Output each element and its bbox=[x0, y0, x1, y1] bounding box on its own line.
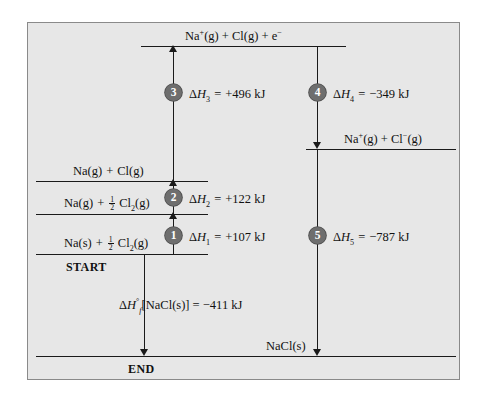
arrow-head-step-3 bbox=[169, 45, 177, 52]
level-label-start: Na(s)+12 Cl2(g) bbox=[64, 236, 148, 253]
step-badge-4[interactable]: 4 bbox=[309, 84, 326, 101]
arrow-head-step-4 bbox=[313, 142, 321, 149]
arrow-head-step-5 bbox=[313, 349, 321, 356]
step-badge-3[interactable]: 3 bbox=[165, 84, 182, 101]
step-label-1: ΔH1=+107 kJ bbox=[189, 231, 265, 244]
arrow-step-5 bbox=[317, 149, 318, 353]
step-badge-2[interactable]: 2 bbox=[165, 189, 182, 206]
level-line-start bbox=[36, 254, 208, 255]
level-label-top: Na+(g) + Cl(g) + e− bbox=[185, 30, 282, 43]
step-badge-1[interactable]: 1 bbox=[165, 227, 182, 244]
level-line-product bbox=[36, 356, 456, 357]
step-badge-5[interactable]: 5 bbox=[309, 227, 326, 244]
arrow-step-3 bbox=[173, 48, 174, 182]
step-label-5: ΔH5=−787 kJ bbox=[333, 231, 409, 244]
end-marker: END bbox=[128, 363, 155, 375]
start-marker: START bbox=[66, 261, 107, 273]
step-label-2: ΔH2=+122 kJ bbox=[189, 193, 265, 206]
arrow-head-overall-formation bbox=[140, 349, 148, 356]
level-label-atoms: Na(g)+Cl(g) bbox=[73, 165, 144, 178]
step-label-4: ΔH4=−349 kJ bbox=[333, 88, 409, 101]
level-line-ion-pair bbox=[306, 149, 456, 150]
overall-formation-label: ΔH°f[NaCl(s)] = −411 kJ bbox=[119, 299, 242, 312]
level-label-product: NaCl(s) bbox=[266, 340, 306, 353]
diagram-panel: Na+(g) + Cl(g) + e− Na+(g) + Cl−(g) Na(g… bbox=[27, 22, 460, 380]
level-label-ion-pair: Na+(g) + Cl−(g) bbox=[344, 133, 422, 146]
level-label-na-gas: Na(g)+12 Cl2(g) bbox=[64, 196, 150, 213]
level-line-na-gas bbox=[36, 214, 208, 215]
born-haber-diagram: Na+(g) + Cl(g) + e− Na+(g) + Cl−(g) Na(g… bbox=[0, 0, 482, 402]
step-label-3: ΔH3=+496 kJ bbox=[189, 88, 265, 101]
level-line-atoms bbox=[36, 181, 208, 182]
